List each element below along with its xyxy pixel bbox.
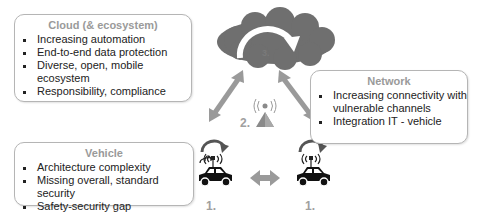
right-car-number-label: 1. <box>305 199 315 213</box>
list-item: Integration IT - vehicle <box>319 115 467 128</box>
list-item: Increasing automation <box>23 33 191 46</box>
cloud-box-list: Increasing automation End-to-end data pr… <box>15 33 191 98</box>
tower-number-label: 2. <box>240 116 250 130</box>
car-to-car-arrow-icon <box>250 170 280 186</box>
cloud-box-title: Cloud (& ecosystem) <box>15 19 191 31</box>
left-car-cycle-arrow-icon <box>202 141 229 153</box>
network-box: Network Increasing connectivity with vul… <box>310 70 468 144</box>
list-item: Architecture complexity <box>23 161 193 174</box>
list-item: Responsibility, compliance <box>23 85 191 98</box>
tower-icon <box>254 99 276 127</box>
left-car-icon <box>199 154 232 186</box>
right-car-icon <box>297 154 330 186</box>
cloud-icon <box>217 7 335 70</box>
vehicle-box-title: Vehicle <box>15 147 193 159</box>
list-item: End-to-end data protection <box>23 46 191 59</box>
vehicle-box-list: Architecture complexity Missing overall,… <box>15 161 193 213</box>
list-item: Missing overall, standard security <box>23 174 193 200</box>
left-car-number-label: 1. <box>206 199 216 213</box>
list-item: Safety-security gap <box>23 200 193 213</box>
cloud-ecosystem-box: Cloud (& ecosystem) Increasing automatio… <box>14 14 192 102</box>
network-box-title: Network <box>311 75 467 87</box>
cloud-number-label: 3. <box>262 48 270 58</box>
cloud-left-car-arrow-icon <box>209 70 244 122</box>
list-item: Increasing connectivity with vulnerable … <box>319 89 467 115</box>
network-box-list: Increasing connectivity with vulnerable … <box>311 89 467 128</box>
vehicle-box: Vehicle Architecture complexity Missing … <box>14 142 194 206</box>
list-item: Diverse, open, mobile ecosystem <box>23 59 191 85</box>
